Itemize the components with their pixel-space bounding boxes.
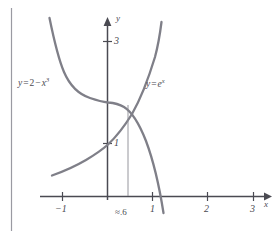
x-axis	[40, 193, 272, 201]
y-tick-label-1: 1	[114, 138, 119, 148]
graph-canvas	[0, 0, 279, 235]
cubic-label-minus: −	[34, 78, 41, 88]
curve-cubic	[50, 18, 164, 213]
x-tick-label-1: 1	[150, 204, 155, 214]
x-tick-label-2: 2	[204, 204, 209, 214]
x-axis-label: x	[264, 200, 268, 209]
exp-label-equals: =	[150, 79, 157, 89]
curve-label-cubic: y=2−x3	[18, 79, 49, 89]
y-axis-arrow	[104, 17, 112, 26]
x-tick-label-3: 3	[250, 204, 255, 214]
x-tick-label-minus1: −1	[55, 204, 67, 214]
function-graph-figure: y x 3 1 −1 1 2 3 y=2−x3 y=ex ≈.6	[0, 0, 279, 235]
root-annotation: ≈.6	[115, 208, 127, 217]
cubic-label-equals: =	[22, 78, 29, 88]
y-axis-label: y	[116, 14, 120, 23]
y-axis	[104, 17, 112, 200]
exp-label-exponent: x	[162, 77, 165, 84]
curve-label-exponential: y=ex	[146, 80, 165, 90]
cubic-label-exponent: 3	[46, 76, 49, 83]
y-tick-label-3: 3	[114, 36, 119, 46]
